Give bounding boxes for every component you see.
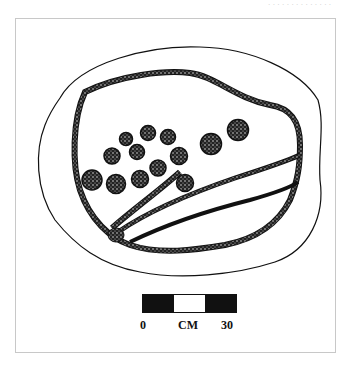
wall-junction [108, 228, 124, 242]
scale-segment-white [174, 295, 205, 312]
scale-segment-black-2 [205, 295, 236, 312]
scale-unit-label: CM [178, 318, 198, 333]
feature-drawing [0, 0, 356, 372]
scale-end-label: 30 [221, 318, 233, 333]
scale-bar [142, 294, 237, 313]
scale-segment-black-1 [143, 295, 174, 312]
scale-start-label: 0 [140, 318, 146, 333]
